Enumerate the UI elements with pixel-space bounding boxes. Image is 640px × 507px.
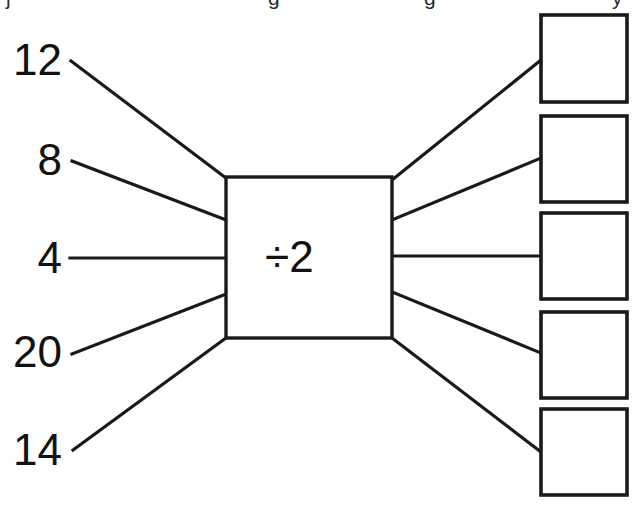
answer-value-3[interactable] [541,213,627,299]
input-connector-group [70,61,226,450]
output-connector-4 [392,292,541,353]
answer-value-4[interactable] [541,312,627,398]
input-number-4: 20 [0,330,62,374]
input-connector-8 [72,161,226,220]
answer-value-2[interactable] [541,116,627,202]
input-connector-20 [72,294,226,354]
input-number-1: 12 [0,38,62,82]
output-connector-2 [392,158,541,220]
output-connector-group [392,60,541,452]
input-connector-14 [73,338,226,450]
operation-label: ÷2 [265,235,314,279]
input-number-3: 4 [0,236,62,280]
answer-value-5[interactable] [541,409,627,495]
output-connector-5 [392,338,541,452]
input-number-2: 8 [0,138,62,182]
input-number-5: 14 [0,428,62,472]
answer-value-1[interactable] [541,15,627,102]
input-connector-12 [71,61,226,178]
worksheet-canvas: j g g y [0,0,640,507]
output-connector-1 [392,60,541,180]
